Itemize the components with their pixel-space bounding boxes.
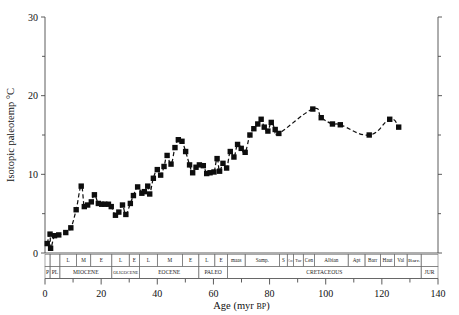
x-axis-tick-label: 40 xyxy=(152,288,162,299)
data-point-marker xyxy=(183,149,188,154)
timescale-cell-label: Tur xyxy=(295,258,302,263)
paleotemperature-figure: 0102030020406080100120140 LMELELMELEmaas… xyxy=(0,0,459,315)
chart-canvas: 0102030020406080100120140 LMELELMELEmaas… xyxy=(0,0,459,315)
data-point-marker xyxy=(228,149,233,154)
timescale-cell-label: EOCENE xyxy=(158,269,181,275)
data-point-marker xyxy=(224,165,229,170)
data-point-marker xyxy=(147,191,152,196)
data-point-marker xyxy=(63,230,68,235)
timescale-cell-label: L xyxy=(205,257,208,263)
timescale-cell-label: Cen xyxy=(305,257,314,263)
data-point-marker xyxy=(45,241,50,246)
timescale-cell-label: M xyxy=(168,257,173,263)
x-axis-tick-label: 20 xyxy=(96,288,106,299)
data-point-marker xyxy=(255,121,260,126)
timescale-cell-label: maas xyxy=(231,257,242,263)
trend-polyline xyxy=(47,108,398,248)
timescale-cell-label: S xyxy=(282,257,285,263)
timescale-cell-label: L xyxy=(147,257,150,263)
data-point-marker xyxy=(56,232,61,237)
y-axis-tick-label: 30 xyxy=(28,12,38,23)
timescale-cell xyxy=(45,255,50,267)
geologic-timescale: LMELELMELEmaasSamp.SConTurCenAlbianAptBa… xyxy=(45,255,438,279)
data-point-marker xyxy=(251,126,256,131)
data-point-marker xyxy=(161,164,166,169)
data-point-marker xyxy=(158,172,163,177)
timescale-cell-label: L xyxy=(119,257,122,263)
timescale-cell-label: P xyxy=(46,269,49,275)
timescale-row-epoch-subdivisions: LMELELMELEmaasSamp.SConTurCenAlbianAptBa… xyxy=(45,255,438,267)
x-axis-tick-label: 0 xyxy=(43,288,48,299)
data-point-marker xyxy=(109,204,114,209)
data-point-marker xyxy=(120,202,125,207)
data-point-marker xyxy=(276,131,281,136)
data-point-marker xyxy=(164,153,169,158)
data-point-marker xyxy=(396,124,401,129)
x-axis-tick-label: 140 xyxy=(431,288,446,299)
timescale-cell-label: E xyxy=(189,257,192,263)
data-point-marker xyxy=(151,176,156,181)
trend-line xyxy=(47,108,398,248)
x-axis-tick-label: 60 xyxy=(208,288,218,299)
data-point-marker xyxy=(319,115,324,120)
timescale-cell-label: JUR xyxy=(425,269,435,275)
timescale-cell-label: PALEO xyxy=(204,269,222,275)
timescale-cell xyxy=(50,255,60,267)
data-point-marker xyxy=(242,150,247,155)
data-point-marker xyxy=(214,156,219,161)
data-point-marker xyxy=(131,193,136,198)
timescale-cell-label: Haut xyxy=(382,257,393,263)
timescale-cell-label: Apt xyxy=(353,257,361,263)
data-point-marker xyxy=(201,163,206,168)
timescale-cell-label: E xyxy=(220,257,223,263)
data-point-marker xyxy=(179,139,184,144)
timescale-cell-label: M xyxy=(81,257,86,263)
y-axis-tick-label: 0 xyxy=(33,248,38,259)
data-point-marker xyxy=(128,201,133,206)
data-point-marker xyxy=(387,117,392,122)
data-point-marker xyxy=(310,106,315,111)
data-point-marker xyxy=(330,121,335,126)
data-point-marker xyxy=(155,167,160,172)
y-axis-title: Isotopic paleotemp °C xyxy=(5,88,16,182)
timescale-cell-label: Barr xyxy=(368,257,377,263)
data-point-marker xyxy=(79,183,84,188)
data-point-marker xyxy=(89,199,94,204)
data-point-marker xyxy=(265,128,270,133)
data-point-marker xyxy=(367,132,372,137)
data-point-marker xyxy=(92,192,97,197)
timescale-row-periods-epochs: PPLMIOCENEOLIGOCENEEOCENEPALEOCRETACEOUS… xyxy=(45,267,438,279)
data-point-marker xyxy=(168,161,173,166)
data-point-marker xyxy=(123,212,128,217)
data-point-marker xyxy=(338,122,343,127)
data-point-marker xyxy=(247,132,252,137)
data-point-marker xyxy=(145,183,150,188)
timescale-cell-label: MIOCENE xyxy=(73,269,99,275)
data-point-marker xyxy=(135,184,140,189)
x-axis-tick-label: 120 xyxy=(374,288,389,299)
data-point-marker xyxy=(116,209,121,214)
timescale-cell-label: Barr. xyxy=(408,258,420,263)
x-axis-title: Age (myr BP) xyxy=(213,300,270,312)
data-point-marker xyxy=(68,225,73,230)
timescale-cell-label: Val xyxy=(397,257,404,263)
y-axis-tick-label: 20 xyxy=(28,90,38,101)
timescale-cell-label: Albian xyxy=(324,257,339,263)
timescale-cell-label: CRETACEOUS xyxy=(306,269,342,275)
data-point-marker xyxy=(142,189,147,194)
data-point-marker xyxy=(187,162,192,167)
data-point-marker xyxy=(73,207,78,212)
timescale-cell-label: E xyxy=(100,257,103,263)
timescale-cell-label: L xyxy=(67,257,70,263)
data-point-marker xyxy=(48,246,53,251)
x-axis-tick-label: 80 xyxy=(265,288,275,299)
data-point-marker xyxy=(172,145,177,150)
x-axis-tick-label: 100 xyxy=(318,288,333,299)
data-point-marker xyxy=(220,161,225,166)
data-point-marker xyxy=(190,170,195,175)
data-point-marker xyxy=(211,169,216,174)
timescale-cell-label: OLIGOCENE xyxy=(113,270,138,275)
data-point-marker xyxy=(217,168,222,173)
timescale-cell-label: Samp. xyxy=(256,257,269,263)
data-point-marker xyxy=(231,154,236,159)
